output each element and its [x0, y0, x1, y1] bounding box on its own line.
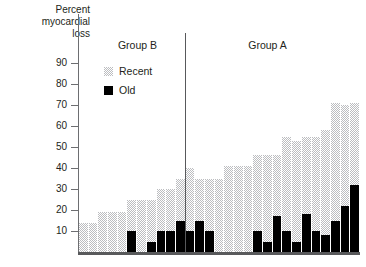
bar-segment-old	[302, 214, 311, 252]
bar-segment-recent	[118, 212, 127, 252]
bar	[127, 200, 136, 253]
bar	[282, 137, 291, 253]
bar	[331, 103, 340, 252]
bar	[108, 212, 117, 252]
bar-segment-old	[341, 206, 350, 252]
bar-segment-recent	[176, 179, 185, 221]
bar	[350, 103, 359, 252]
bar-segment-recent	[282, 137, 291, 232]
bar-segment-recent	[292, 141, 301, 242]
bar-segment-old	[147, 242, 156, 253]
y-tick-label: 80	[41, 79, 67, 89]
bar	[137, 200, 146, 253]
bar-segment-old	[127, 231, 136, 252]
y-tick-mark	[71, 63, 79, 64]
y-tick-mark	[71, 231, 79, 232]
y-tick-label: 60	[41, 121, 67, 131]
bar	[321, 130, 330, 252]
bar	[253, 155, 262, 252]
bar-segment-recent	[137, 200, 146, 253]
bar-segment-recent	[79, 223, 88, 252]
bar	[195, 179, 204, 253]
bar-segment-old	[157, 231, 166, 252]
bar	[166, 189, 175, 252]
bar-segment-old	[331, 221, 340, 253]
chart-figure: Percent myocardial loss 1020304050607080…	[0, 0, 366, 267]
bar-segment-old	[350, 185, 359, 252]
bar	[79, 223, 88, 252]
bar-segment-recent	[195, 179, 204, 221]
bar-segment-recent	[244, 166, 253, 252]
bar	[215, 179, 224, 253]
bar-segment-old	[166, 231, 175, 252]
bar	[341, 105, 350, 252]
x-axis-baseline	[78, 252, 360, 255]
y-tick-mark	[71, 147, 79, 148]
bar-segment-recent	[157, 189, 166, 231]
bar-segment-old	[321, 235, 330, 252]
bar-segment-recent	[215, 179, 224, 253]
bar-segment-recent	[341, 105, 350, 206]
y-tick-label: 70	[41, 100, 67, 110]
bar	[224, 166, 233, 252]
bar-segment-recent	[89, 223, 98, 252]
bar	[263, 155, 272, 252]
bar-segment-recent	[331, 103, 340, 221]
y-tick-label: 30	[41, 184, 67, 194]
bar-segment-old	[176, 221, 185, 253]
bar	[186, 168, 195, 252]
bar-segment-old	[292, 242, 301, 253]
bar	[234, 166, 243, 252]
bar-segment-recent	[302, 137, 311, 215]
plot-area	[79, 14, 360, 252]
bar-segment-old	[282, 231, 291, 252]
bar-segment-recent	[186, 168, 195, 231]
y-tick-label: 50	[41, 142, 67, 152]
y-tick-label: 90	[41, 58, 67, 68]
bar	[98, 212, 107, 252]
y-tick-label: 10	[41, 226, 67, 236]
y-tick-mark	[71, 105, 79, 106]
bar-segment-recent	[127, 200, 136, 232]
bar-segment-recent	[147, 200, 156, 242]
bar-segment-recent	[253, 155, 262, 231]
bar-segment-recent	[263, 155, 272, 241]
bar-segment-old	[263, 242, 272, 253]
bar-segment-old	[253, 231, 262, 252]
bar	[273, 155, 282, 252]
bar-segment-recent	[108, 212, 117, 252]
bar-segment-recent	[224, 166, 233, 252]
bar-segment-old	[195, 221, 204, 253]
bar	[312, 137, 321, 253]
y-tick-mark	[71, 84, 79, 85]
bar-segment-recent	[273, 155, 282, 216]
bar	[205, 179, 214, 253]
bar-segment-recent	[321, 130, 330, 235]
y-tick-label: 40	[41, 163, 67, 173]
bar-segment-recent	[312, 137, 321, 232]
bar-segment-recent	[234, 166, 243, 252]
bar	[147, 200, 156, 253]
bar	[89, 223, 98, 252]
bar-segment-recent	[350, 103, 359, 185]
bar-segment-recent	[205, 179, 214, 232]
bar-segment-recent	[166, 189, 175, 231]
y-tick-mark	[71, 210, 79, 211]
bar	[302, 137, 311, 253]
y-tick-label: 20	[41, 205, 67, 215]
y-tick-mark	[71, 189, 79, 190]
bar-segment-recent	[98, 212, 107, 252]
y-tick-mark	[71, 126, 79, 127]
bar-segment-old	[312, 231, 321, 252]
bar	[157, 189, 166, 252]
bar	[244, 166, 253, 252]
bar	[118, 212, 127, 252]
bar-segment-old	[205, 231, 214, 252]
bar	[292, 141, 301, 252]
y-tick-mark	[71, 168, 79, 169]
bar-segment-old	[186, 231, 195, 252]
bar-segment-old	[273, 216, 282, 252]
bar	[176, 179, 185, 253]
